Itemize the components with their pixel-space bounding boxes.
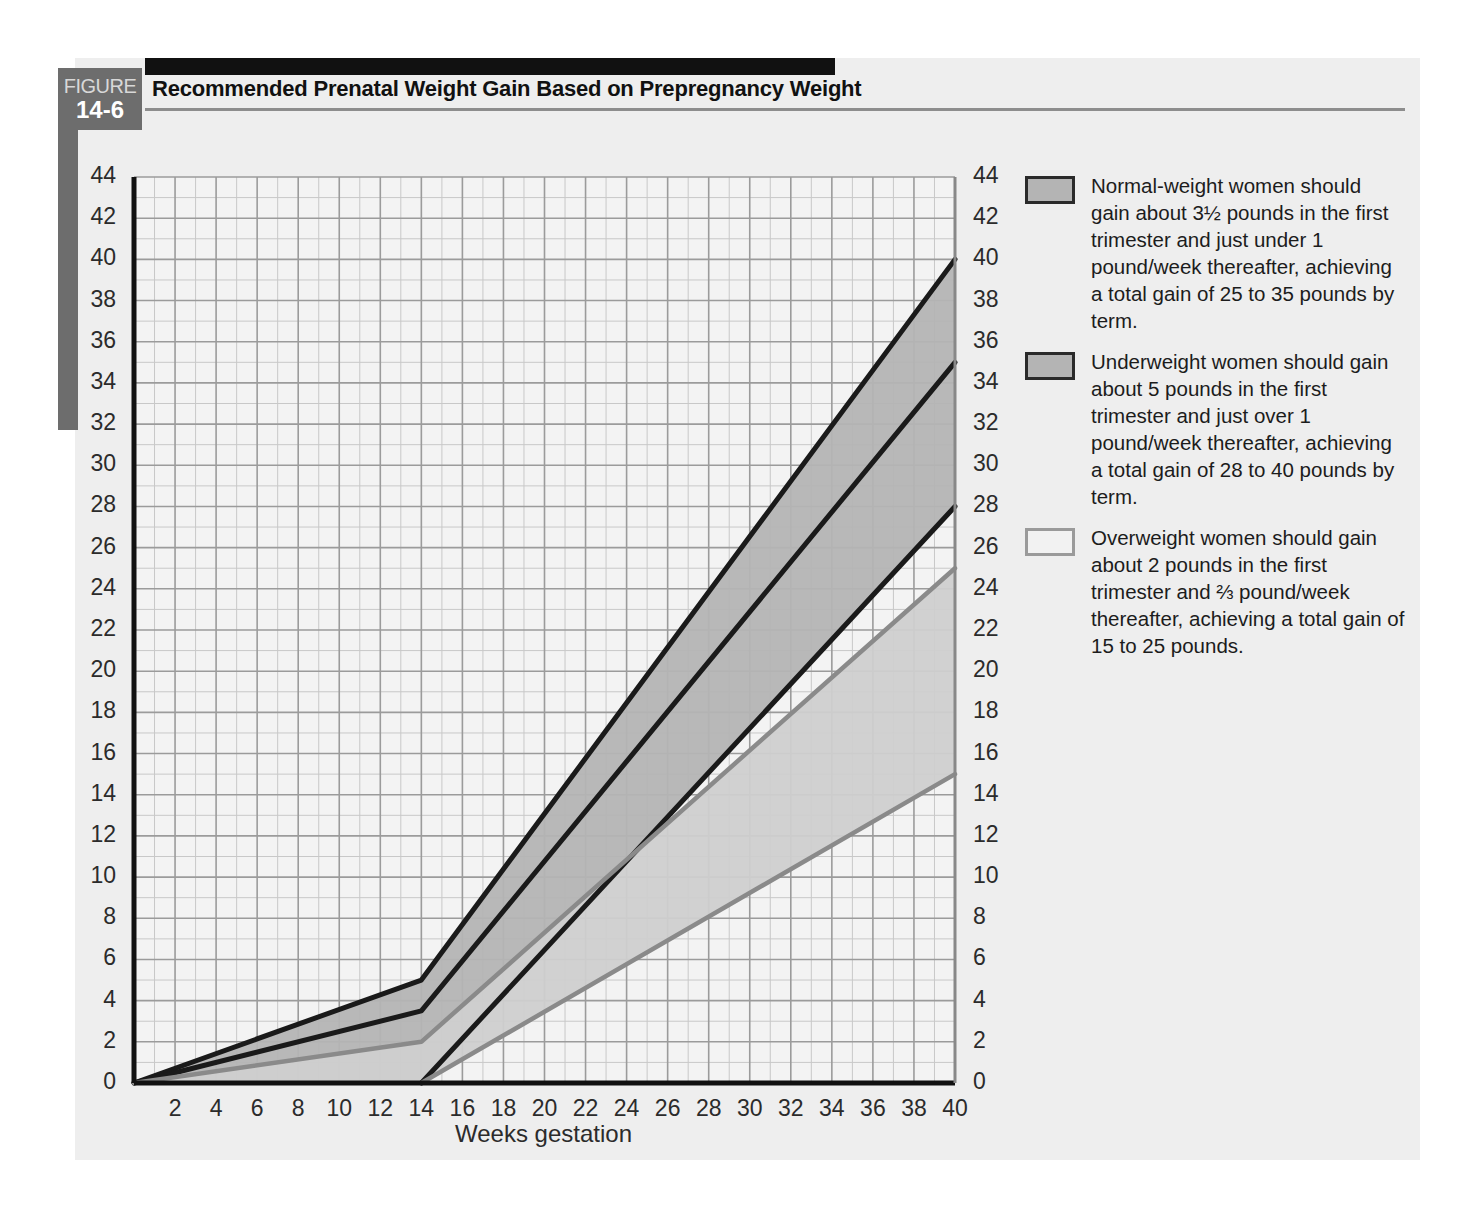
legend-item-underweight: Underweight women should gain about 5 po… [1025,348,1405,510]
figure-number-badge: FIGURE 14-6 [58,68,142,130]
legend-text-overweight: Overweight women should gain about 2 pou… [1091,524,1405,659]
normal-weight-swatch-icon [1025,176,1075,204]
header-accent-bar [145,58,835,75]
header-divider [145,108,1405,111]
underweight-swatch-icon [1025,352,1075,380]
figure-badge-word: FIGURE [64,76,137,96]
overweight-swatch-icon [1025,528,1075,556]
legend-text-normal-weight: Normal-weight women should gain about 3½… [1091,172,1405,334]
legend-item-normal-weight: Normal-weight women should gain about 3½… [1025,172,1405,334]
chart-legend: Normal-weight women should gain about 3½… [1025,172,1405,673]
legend-item-overweight: Overweight women should gain about 2 pou… [1025,524,1405,659]
figure-side-bar [58,130,78,430]
legend-text-underweight: Underweight women should gain about 5 po… [1091,348,1405,510]
figure-badge-number: 14-6 [76,98,124,122]
figure-title: Recommended Prenatal Weight Gain Based o… [152,76,1152,106]
